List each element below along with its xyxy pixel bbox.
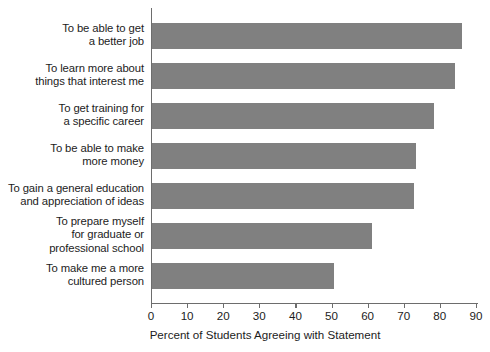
bar-chart: To be able to get a better jobTo learn m… <box>0 0 490 352</box>
tick-mark <box>151 303 152 308</box>
category-label: To gain a general education and apprecia… <box>0 182 144 209</box>
tick-mark <box>368 303 369 308</box>
category-label: To prepare myself for graduate or profes… <box>0 215 144 255</box>
bar <box>152 183 414 209</box>
tick-label: 50 <box>317 309 347 322</box>
tick-mark <box>259 303 260 308</box>
category-label: To make me a more cultured person <box>0 262 144 289</box>
tick-label: 80 <box>425 309 455 322</box>
category-label: To learn more about things that interest… <box>0 62 144 89</box>
tick-label: 20 <box>208 309 238 322</box>
x-axis-title: Percent of Students Agreeing with Statem… <box>0 328 490 341</box>
tick-mark <box>476 303 477 308</box>
tick-label: 10 <box>172 309 202 322</box>
bar <box>152 63 455 89</box>
bar <box>152 23 462 49</box>
x-axis-line <box>151 303 478 304</box>
tick-mark <box>440 303 441 308</box>
y-axis-line <box>151 8 152 303</box>
category-label: To be able to make more money <box>0 142 144 169</box>
bar <box>152 263 334 289</box>
tick-mark <box>187 303 188 308</box>
tick-mark <box>404 303 405 308</box>
bar <box>152 143 416 169</box>
tick-label: 60 <box>353 309 383 322</box>
tick-label: 30 <box>244 309 274 322</box>
tick-label: 70 <box>389 309 419 322</box>
category-label: To get training for a specific career <box>0 102 144 129</box>
tick-label: 0 <box>136 309 166 322</box>
tick-label: 40 <box>280 309 310 322</box>
bar <box>152 103 434 129</box>
tick-mark <box>332 303 333 308</box>
tick-mark <box>223 303 224 308</box>
tick-mark <box>295 303 296 308</box>
category-label: To be able to get a better job <box>0 22 144 49</box>
category-axis-labels: To be able to get a better jobTo learn m… <box>0 0 148 303</box>
tick-label: 90 <box>461 309 490 322</box>
plot-area <box>152 0 482 303</box>
bar <box>152 223 372 249</box>
